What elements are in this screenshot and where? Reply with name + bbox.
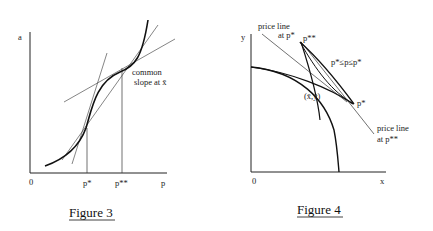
- tangent-line-p-star: [72, 53, 107, 164]
- tick-p-double-star: p**: [115, 178, 128, 188]
- origin-label: 0: [29, 177, 33, 187]
- figure-4-caption: Figure 4: [297, 202, 341, 217]
- tick-p-star: p*: [83, 178, 92, 188]
- price-line-p-star-label-2: at p*: [278, 30, 295, 40]
- x-axis-label: p: [161, 178, 165, 188]
- point-xy-label: (x̄,ȳ): [304, 91, 320, 101]
- figure-3-caption: Figure 3: [69, 205, 113, 220]
- point-p-double-star-label: p**: [303, 33, 316, 43]
- x-axis-label: x: [380, 176, 385, 186]
- y-axis-label: y: [241, 32, 246, 42]
- origin-label: 0: [252, 176, 256, 186]
- price-line-p-double-star-label-2: at p**: [377, 134, 398, 144]
- figures-canvas: a 0 p* p** p common slope at x̄ Figure 3…: [0, 0, 433, 231]
- price-line-p-double-star-label-1: price line: [377, 123, 409, 133]
- tangent-line-p-double-star: [62, 25, 158, 160]
- s-curve: [45, 20, 148, 166]
- annotation-slope: slope at x̄: [134, 77, 167, 87]
- annotation-common: common: [132, 67, 162, 77]
- figure-4: y 0 x price line at p* p** p*≤p≤p* (x̄,y…: [241, 21, 409, 217]
- frontier-curve-outer: [251, 67, 339, 172]
- y-axis-label: a: [18, 32, 22, 42]
- figure-3: a 0 p* p** p common slope at x̄ Figure 3: [18, 20, 175, 220]
- range-label: p*≤p≤p*: [331, 57, 362, 67]
- point-p-star-label: p*: [357, 98, 366, 108]
